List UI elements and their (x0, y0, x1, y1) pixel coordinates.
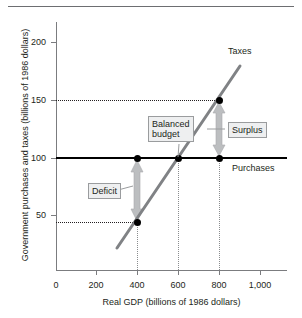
y-axis-title: Government purchases and taxes (billions… (20, 20, 30, 270)
deficit-callout: Deficit (88, 183, 121, 199)
surplus-callout: Surplus (228, 122, 267, 138)
chart-figure: 200 150 100 50 0 200 400 600 800 1,000 P… (0, 0, 302, 318)
balanced-budget-callout: Balanced budget (148, 116, 194, 142)
leader-lines-layer (0, 0, 302, 318)
balanced-budget-line1: Balanced (152, 119, 190, 129)
balanced-budget-line2: budget (152, 129, 190, 139)
x-axis-title: Real GDP (billions of 1986 dollars) (56, 297, 287, 307)
